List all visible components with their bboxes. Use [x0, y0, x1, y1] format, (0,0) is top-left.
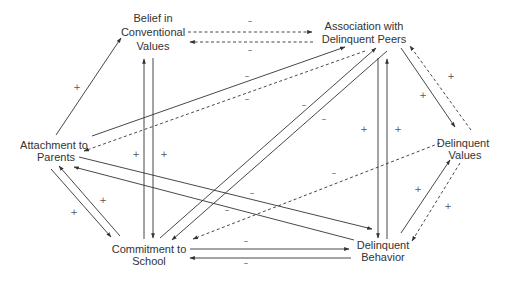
sign-minus: –	[250, 188, 255, 198]
sign-plus: +	[99, 195, 107, 205]
sign-plus: +	[360, 124, 368, 134]
node-label-line: Values	[137, 40, 170, 52]
sign-plus: +	[70, 207, 78, 217]
sign-plus: +	[73, 82, 81, 92]
node-label-line: Attachment to	[20, 139, 88, 151]
sign-minus: –	[248, 45, 253, 55]
sign-plus: +	[132, 149, 140, 159]
sign-minus: –	[225, 205, 230, 215]
sign-plus: +	[160, 149, 168, 159]
sign-plus: +	[394, 124, 402, 134]
node-label-line: School	[132, 255, 166, 267]
node-belief-in-conventional-values: Belief in Conventional Values	[121, 12, 185, 52]
sign-minus: –	[244, 258, 249, 268]
sign-minus: –	[322, 114, 327, 124]
edge-attachment-to-peers	[92, 47, 345, 136]
sign-plus: +	[419, 90, 427, 100]
node-delinquent-values: Delinquent Values	[437, 137, 490, 161]
edge-delinquent-values-to-peers	[410, 46, 471, 130]
edge-delinquent-values-to-behavior	[412, 163, 460, 241]
node-label-line: Delinquent	[357, 239, 410, 251]
edge-peers-to-delinquent-values	[401, 48, 455, 127]
causal-path-diagram: Belief in Conventional Values Associatio…	[0, 0, 508, 281]
edge-peers-to-school	[172, 51, 387, 240]
edge-delinquent-values-to-school	[193, 143, 440, 239]
edge-behavior-to-delinquent-values	[401, 160, 450, 233]
node-label-line: Belief in	[133, 12, 172, 24]
sign-plus: +	[414, 184, 422, 194]
node-label-line: Commitment to	[112, 243, 187, 255]
sign-labels: – – + – – – – + + + + + + + + – – – – – …	[70, 16, 455, 268]
edge-attachment-to-behavior	[79, 157, 372, 229]
node-label-line: Parents	[37, 151, 75, 163]
sign-minus: –	[245, 71, 250, 81]
node-association-with-delinquent-peers: Association with Delinquent Peers	[322, 20, 407, 45]
node-label-line: Association with	[325, 20, 404, 32]
sign-minus: –	[332, 168, 337, 178]
sign-minus: –	[244, 236, 249, 246]
sign-minus: –	[245, 94, 250, 104]
sign-minus: –	[302, 100, 307, 110]
node-commitment-to-school: Commitment to School	[112, 243, 187, 267]
node-label-line: Behavior	[361, 251, 405, 263]
sign-plus: +	[447, 71, 455, 81]
node-label-line: Values	[449, 149, 482, 161]
node-label-line: Conventional	[121, 26, 185, 38]
edge-attachment-to-belief	[56, 38, 121, 135]
node-label-line: Delinquent	[437, 137, 490, 149]
edge-behavior-to-attachment	[74, 167, 354, 240]
sign-plus: +	[444, 201, 452, 211]
node-delinquent-behavior: Delinquent Behavior	[357, 239, 410, 263]
node-label-line: Delinquent Peers	[322, 33, 407, 45]
edge-peers-to-attachment	[84, 51, 365, 151]
sign-minus: –	[248, 16, 253, 26]
node-attachment-to-parents: Attachment to Parents	[20, 139, 88, 163]
